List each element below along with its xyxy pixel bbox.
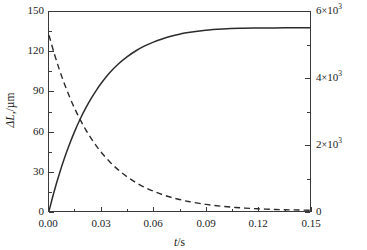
series-velocity-line [49, 35, 310, 210]
x-tick-minor-2 [180, 209, 181, 212]
y-left-tick-minor-1 [49, 152, 52, 153]
y-left-tick-minor-4 [49, 31, 52, 32]
y-left-tick-major-3 [49, 91, 54, 92]
x-tick-minor-3 [232, 209, 233, 212]
y-left-tick-minor-2 [49, 112, 52, 113]
x-tick-label-4: 0.12 [238, 218, 278, 229]
x-tick-label-5: 0.15 [291, 218, 331, 229]
y-left-tick-major-4 [49, 51, 54, 52]
figure-container: 0.000.030.060.090.120.15030609012015002×… [0, 0, 367, 250]
y-left-tick-minor-3 [49, 71, 52, 72]
y-left-tick-label-0: 0 [12, 206, 44, 217]
y-axis-left-title: ΔL,/µm [4, 82, 16, 138]
x-tick-label-2: 0.06 [133, 218, 173, 229]
x-tick-label-1: 0.03 [81, 218, 121, 229]
x-tick-major-1 [101, 207, 102, 212]
x-tick-minor-0 [74, 209, 75, 212]
y-right-tick-major-3 [305, 11, 310, 12]
x-tick-major-5 [311, 207, 312, 212]
y-left-tick-label-3: 90 [12, 85, 44, 96]
y-left-tick-label-4: 120 [12, 45, 44, 56]
x-tick-label-0: 0.00 [28, 218, 68, 229]
y-left-tick-major-2 [49, 132, 54, 133]
y-right-tick-minor-1 [307, 112, 310, 113]
y-right-tick-major-2 [305, 78, 310, 79]
plot-area [48, 11, 311, 212]
y-left-tick-major-1 [49, 172, 54, 173]
y-right-tick-minor-2 [307, 45, 310, 46]
y-left-tick-major-0 [49, 212, 54, 213]
x-tick-major-4 [258, 207, 259, 212]
y-right-tick-major-1 [305, 145, 310, 146]
y-left-tick-major-5 [49, 11, 54, 12]
x-tick-major-3 [206, 207, 207, 212]
series-delta-l-line [49, 28, 310, 211]
y-right-tick-label-0: 0 [316, 206, 360, 217]
y-right-tick-label-1: 2×103 [316, 139, 360, 150]
x-tick-label-3: 0.09 [186, 218, 226, 229]
y-right-tick-label-3: 6×103 [316, 5, 360, 16]
y-right-tick-minor-0 [307, 179, 310, 180]
y-left-tick-label-1: 30 [12, 166, 44, 177]
x-tick-minor-1 [127, 209, 128, 212]
y-right-tick-major-0 [305, 212, 310, 213]
x-tick-minor-4 [285, 209, 286, 212]
y-left-tick-minor-0 [49, 192, 52, 193]
y-right-tick-label-2: 4×103 [316, 72, 360, 83]
curves-svg [49, 12, 310, 211]
y-left-tick-label-5: 150 [12, 5, 44, 16]
y-left-tick-label-2: 60 [12, 126, 44, 137]
x-axis-title: t/s [160, 236, 200, 248]
x-tick-major-2 [153, 207, 154, 212]
